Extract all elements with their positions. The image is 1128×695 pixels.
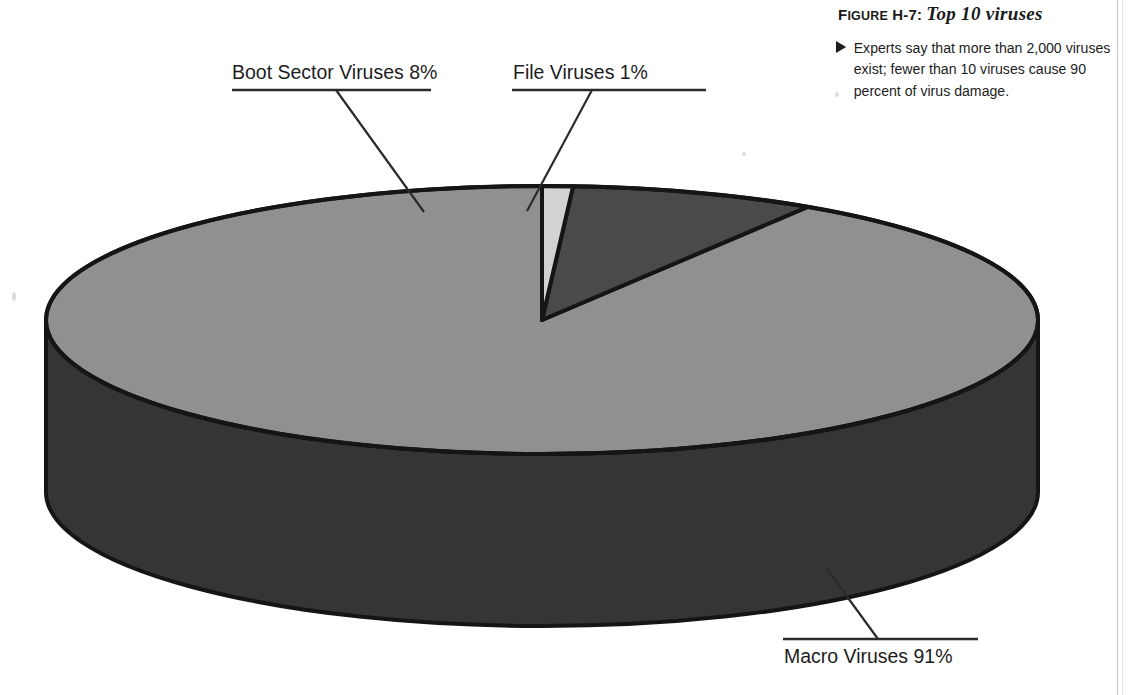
figure-title-text: Top 10 viruses [926, 3, 1042, 24]
page-edge-rule-secondary [1122, 0, 1123, 695]
figure-caption-block: FIGURE H-7:Top 10 viruses Experts say th… [836, 4, 1108, 101]
triangle-right-icon [836, 41, 846, 53]
scan-speck [12, 292, 16, 301]
callout-label-boot-sector: Boot Sector Viruses 8% [232, 60, 437, 84]
figure-number-label: FIGURE H-7: [838, 6, 922, 23]
scan-speck [835, 92, 839, 97]
figure-title: FIGURE H-7:Top 10 viruses [836, 4, 1108, 24]
caption-body-text: Experts say that more than 2,000 viruses… [854, 39, 1111, 99]
callout-label-file-viruses: File Viruses 1% [513, 60, 648, 84]
figure-page: Boot Sector Viruses 8% File Viruses 1% M… [0, 0, 1128, 695]
figure-caption-text: Experts say that more than 2,000 viruses… [836, 37, 1120, 102]
scan-speck [742, 152, 746, 156]
pie-chart-svg [0, 0, 1128, 695]
callout-label-macro-viruses: Macro Viruses 91% [784, 644, 953, 668]
page-edge-rule [1117, 0, 1118, 695]
pie-chart [0, 0, 1128, 695]
